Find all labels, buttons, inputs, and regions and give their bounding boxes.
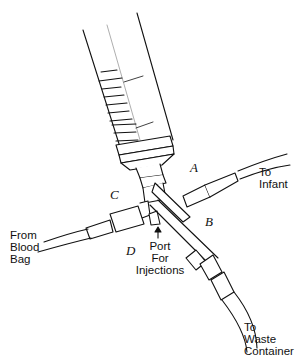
- label-line: For: [134, 252, 186, 264]
- label-port-for-injections: Port For Injections: [134, 240, 186, 276]
- port-arrow: [155, 227, 161, 238]
- label-line: Port: [134, 240, 186, 252]
- label-line: To: [259, 166, 288, 178]
- label-to-infant: To Infant: [259, 166, 288, 190]
- label-valve-c: C: [110, 187, 119, 203]
- label-line: Container: [244, 345, 294, 357]
- label-line: Infant: [259, 178, 288, 190]
- label-to-waste-container: To Waste Container: [244, 321, 294, 357]
- label-valve-b: B: [205, 214, 213, 230]
- label-line: From: [10, 229, 39, 241]
- label-line: Bag: [10, 253, 39, 265]
- label-line: To: [244, 321, 294, 333]
- label-line: Waste: [244, 333, 294, 345]
- label-from-blood-bag: From Blood Bag: [10, 229, 39, 265]
- label-line: Injections: [134, 264, 186, 276]
- label-valve-a: A: [190, 160, 198, 176]
- syringe-diagram: [0, 0, 303, 362]
- syringe-barrel: [83, 13, 174, 188]
- label-line: Blood: [10, 241, 39, 253]
